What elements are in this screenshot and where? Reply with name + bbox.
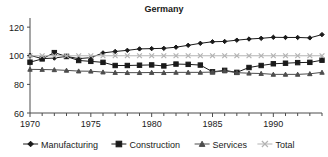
square-marker (116, 141, 122, 147)
data-point-construction-11 (162, 64, 166, 68)
data-point-services-5 (89, 69, 93, 73)
legend-label-services: Services (213, 140, 248, 150)
data-point-services-23 (308, 72, 312, 76)
data-point-services-2 (52, 68, 56, 72)
data-point-manufacturing-19 (259, 36, 263, 40)
data-point-manufacturing-7 (113, 49, 117, 53)
data-point-manufacturing-17 (235, 38, 239, 42)
data-point-construction-9 (137, 63, 141, 67)
legend-item-services[interactable]: Services (195, 140, 248, 150)
data-point-construction-13 (186, 62, 190, 66)
data-point-construction-19 (259, 63, 263, 67)
data-point-services-10 (149, 70, 153, 74)
data-point-services-9 (137, 70, 141, 74)
data-point-manufacturing-24 (320, 32, 324, 36)
x-axis: 19701975198019851990 (20, 113, 322, 129)
y-tick-label-1: 80 (14, 80, 24, 90)
data-point-manufacturing-10 (149, 46, 153, 50)
x-tick-label-0: 1970 (20, 119, 40, 129)
data-point-construction-14 (198, 63, 202, 67)
data-point-manufacturing-23 (308, 36, 312, 40)
data-point-construction-6 (101, 60, 105, 64)
data-point-manufacturing-15 (210, 40, 214, 44)
data-point-manufacturing-8 (125, 48, 129, 52)
x-tick-label-4: 1990 (263, 119, 283, 129)
data-point-services-6 (101, 70, 105, 74)
data-point-services-4 (76, 69, 80, 73)
data-point-manufacturing-11 (162, 46, 166, 50)
data-point-manufacturing-13 (186, 43, 190, 47)
data-point-services-13 (186, 70, 190, 74)
data-point-construction-12 (174, 62, 178, 66)
x-tick-label-2: 1980 (142, 119, 162, 129)
legend-item-construction[interactable]: Construction (111, 140, 180, 150)
data-point-construction-0 (28, 60, 32, 64)
data-point-services-3 (64, 68, 68, 72)
chart-legend: ManufacturingConstructionServicesTotal (23, 140, 294, 150)
data-point-construction-23 (308, 60, 312, 64)
data-point-manufacturing-14 (198, 41, 202, 45)
data-point-services-19 (259, 71, 263, 75)
data-point-services-20 (271, 72, 275, 76)
data-point-services-24 (320, 70, 324, 74)
data-point-construction-18 (247, 65, 251, 69)
y-tick-label-0: 60 (14, 109, 24, 119)
data-point-manufacturing-9 (137, 47, 141, 51)
data-point-services-12 (174, 70, 178, 74)
series-layer (28, 32, 325, 76)
chart-container: Germany 6080100120 19701975198019851990 … (0, 0, 328, 157)
data-point-manufacturing-18 (247, 37, 251, 41)
data-point-construction-4 (76, 58, 80, 62)
data-point-services-11 (162, 70, 166, 74)
diamond-marker (28, 141, 34, 147)
data-point-construction-8 (125, 63, 129, 67)
data-point-construction-7 (113, 63, 117, 67)
data-point-manufacturing-20 (271, 35, 275, 39)
data-point-services-22 (295, 72, 299, 76)
legend-item-total[interactable]: Total (257, 140, 294, 150)
y-axis: 6080100120 (9, 18, 30, 119)
data-point-manufacturing-16 (222, 39, 226, 43)
chart-title: Germany (144, 4, 183, 14)
line-chart: Germany 6080100120 19701975198019851990 … (0, 0, 328, 157)
legend-label-construction: Construction (129, 140, 180, 150)
data-point-services-14 (198, 70, 202, 74)
data-point-services-7 (113, 70, 117, 74)
legend-item-manufacturing[interactable]: Manufacturing (23, 140, 98, 150)
data-point-services-8 (125, 70, 129, 74)
data-point-services-1 (40, 67, 44, 71)
data-point-construction-10 (149, 63, 153, 67)
data-point-manufacturing-21 (283, 35, 287, 39)
x-tick-label-3: 1985 (202, 119, 222, 129)
data-point-construction-22 (295, 60, 299, 64)
data-point-manufacturing-22 (295, 35, 299, 39)
series-services (28, 67, 324, 76)
y-tick-label-3: 120 (9, 23, 24, 33)
data-point-services-21 (283, 72, 287, 76)
legend-label-manufacturing: Manufacturing (41, 140, 98, 150)
x-tick-label-1: 1975 (81, 119, 101, 129)
data-point-manufacturing-12 (174, 45, 178, 49)
legend-label-total: Total (275, 140, 294, 150)
data-point-construction-24 (320, 58, 324, 62)
data-point-construction-21 (283, 61, 287, 65)
data-point-construction-5 (89, 59, 93, 63)
data-point-services-18 (247, 71, 251, 75)
y-tick-label-2: 100 (9, 51, 24, 61)
data-point-construction-20 (271, 62, 275, 66)
triangle-marker (199, 141, 205, 146)
data-point-services-0 (28, 67, 32, 71)
